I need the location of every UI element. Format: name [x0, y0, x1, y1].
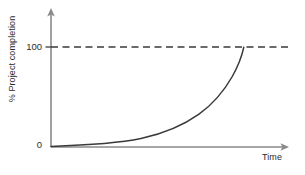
- y-tick-label-100: 100: [16, 41, 42, 52]
- completion-curve: [51, 47, 244, 146]
- y-axis-label: % Project completion: [7, 11, 17, 107]
- x-axis-label: Time: [262, 152, 282, 162]
- y-tick-label-0: 0: [22, 139, 42, 150]
- project-completion-chart: 100 0 % Project completion Time: [0, 0, 305, 175]
- chart-plot-area: [0, 0, 305, 175]
